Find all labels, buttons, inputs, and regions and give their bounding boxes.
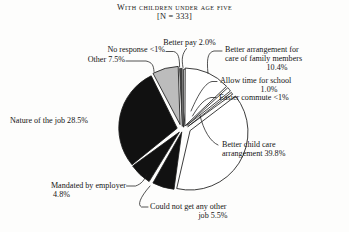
leader-line-could-not-get-other-job xyxy=(140,186,150,207)
callout-better-child-care-line2: arrangement 39.8% xyxy=(222,149,346,159)
callout-could-not-get-other-job-line2: job 5.5% xyxy=(150,211,276,221)
leader-line-better-arrangement-care xyxy=(207,51,222,74)
callout-easier-commute: Easier commute <1% xyxy=(219,93,347,103)
callout-better-arrangement-care-value: 10.4% xyxy=(225,63,329,73)
callout-no-response: No response <1% xyxy=(48,45,165,55)
pie-chart-figure: With Children Under Age Five [N = 333] xyxy=(0,0,349,232)
leader-line-no-response xyxy=(166,52,180,68)
callout-other: Other 7.5% xyxy=(30,55,125,65)
callout-nature-of-the-job: Nature of the job 28.5% xyxy=(10,116,140,126)
leader-line-other xyxy=(126,61,154,72)
leader-line-better-pay xyxy=(182,49,186,68)
callout-mandated-by-employer-value: 4.8% xyxy=(5,190,118,200)
